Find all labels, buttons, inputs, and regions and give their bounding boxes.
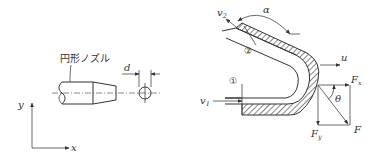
alpha-angle-label: α <box>263 4 270 15</box>
nozzle-leader-line <box>70 65 71 82</box>
pipe-velocity-label: u <box>341 52 347 63</box>
force-label: F <box>353 124 362 135</box>
x-axis-label: x <box>71 142 77 153</box>
theta-angle-label: θ <box>335 93 341 104</box>
coordinate-axes: y x <box>17 99 77 153</box>
force-y-label: Fy <box>310 128 322 141</box>
pipe-wall-hatched <box>236 23 319 115</box>
bent-pipe-figure: ① v1 ② v2 α u θ Fx Fy F <box>200 4 362 141</box>
nozzle-label: 円形ノズル <box>60 52 110 64</box>
inlet-velocity-label: v1 <box>200 95 210 108</box>
force-diagram: θ Fx Fy F <box>310 74 362 141</box>
force-x-label: Fx <box>350 74 362 87</box>
section-1-label: ① <box>229 76 237 86</box>
section-2-label: ② <box>244 46 252 56</box>
nozzle-figure: 円形ノズル d <box>52 52 162 104</box>
y-axis-label: y <box>17 99 24 110</box>
outlet-velocity-label: v2 <box>217 7 227 20</box>
diameter-label: d <box>124 62 130 73</box>
force-resultant-arrow <box>318 85 348 124</box>
diagram-canvas: 円形ノズル d y x ① v1 ② <box>0 0 378 161</box>
theta-angle-arc <box>328 85 334 99</box>
